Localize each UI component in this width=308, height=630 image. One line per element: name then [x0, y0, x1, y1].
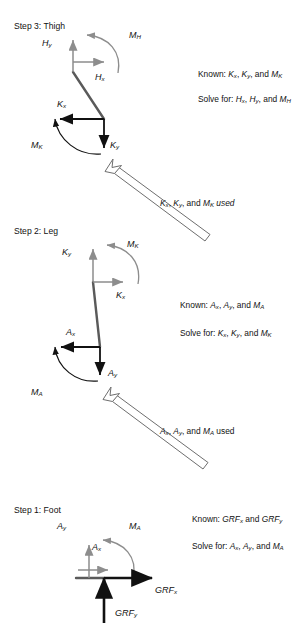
vector-sub-kx-thigh: x [63, 102, 66, 109]
vector-label-grfx: GRFx [155, 586, 177, 596]
and-4: and [237, 300, 251, 310]
ankle-moment-arc-foot [103, 540, 134, 578]
vector-base-mk-thigh: M [31, 140, 39, 150]
comma-6: , [182, 198, 184, 208]
comma-8: , [232, 300, 234, 310]
step1-solve-term-3-base: M [273, 541, 280, 551]
vector-sub-grfy: y [134, 611, 137, 618]
step1-solve-text: Solve for: Ax, Ay, and MA [192, 542, 284, 551]
step2-title: Step 2: Leg [14, 227, 58, 236]
vector-sub-grfx: x [174, 588, 177, 595]
comma-12: , [182, 426, 184, 436]
vector-label-ax-foot: Ax [92, 543, 101, 553]
vector-base-ma-foot: M [129, 521, 137, 531]
vector-sub-ky-leg: y [68, 250, 71, 257]
vector-label-mk-leg: MK [127, 240, 139, 250]
vector-sub-ky-thigh: y [116, 143, 119, 150]
hip-moment-arc [87, 35, 119, 73]
vector-label-hx: Hx [95, 73, 105, 83]
step2-known-term-3-sub: A [260, 303, 264, 310]
and-5: and [244, 328, 258, 338]
comma-4: , [259, 94, 261, 104]
step1-known-term-1-sub: x [240, 517, 243, 524]
leg-segment [93, 282, 100, 347]
step2-solve-text: Solve for: Kx, Ky, and MK [180, 329, 272, 338]
vector-sub-mh: H [137, 33, 141, 40]
comma-1: , [237, 69, 239, 79]
vector-label-grfy: GRFy [115, 609, 137, 619]
step1-known-text: Known: GRFx and GRFy [192, 515, 282, 524]
vector-label-mh: MH [129, 31, 141, 41]
knee-moment-arc-leg [107, 245, 139, 284]
step2-solve-term-3-sub: K [268, 331, 272, 338]
vector-sub-ma-leg: A [39, 390, 43, 397]
step2-known-text: Known: Ax, Ay, and MA [180, 301, 264, 310]
vector-sub-ax-leg: x [72, 330, 75, 337]
transfer2-term-3-base: M [203, 426, 210, 436]
step3-known-term-3-sub: K [278, 72, 282, 79]
comma-7: , [219, 300, 221, 310]
step3-thigh-freebody [55, 35, 119, 154]
and-8: and [256, 541, 270, 551]
comma-3: , [245, 94, 247, 104]
vector-base-grfy: GRF [115, 608, 134, 618]
vector-sub-mk-leg: K [135, 242, 139, 249]
step1-known-term-2-sub: y [279, 517, 282, 524]
transfer1-term-3-base: M [203, 198, 210, 208]
step2-leg-freebody [55, 245, 139, 381]
vector-sub-ay-leg: y [114, 371, 117, 378]
vector-label-ay-foot: Ay [57, 522, 66, 532]
comma-14: , [252, 541, 254, 551]
and-3: and [187, 198, 201, 208]
transfer1-suffix: used [216, 198, 234, 208]
knee-moment-arc [55, 119, 101, 154]
step1-foot-freebody [76, 540, 152, 623]
step2-solve-term-3-base: M [261, 328, 268, 338]
vector-base-mk-leg: M [127, 239, 135, 249]
inverse-dynamics-diagram: Step 3: Thigh Hy Hx MH Kx Ky MK Known: K… [0, 0, 308, 630]
vector-label-kx-leg: Kx [116, 291, 125, 301]
ankle-moment-arc-leg [55, 347, 98, 381]
transfer2-suffix: used [216, 426, 234, 436]
vector-label-mk-thigh: MK [31, 141, 43, 151]
vector-label-ma-foot: MA [129, 522, 141, 532]
step3-solve-term-3-sub: H [287, 97, 291, 104]
vector-label-ky-leg: Ky [62, 248, 71, 258]
comma-9: , [226, 328, 228, 338]
vector-label-ax-leg: Ax [66, 328, 75, 338]
vector-sub-hy: y [49, 41, 52, 48]
step3-known-text: Known: Kx, Ky, and MK [198, 70, 282, 79]
transfer-foot-to-leg-text: Ax, Ay, and MA used [160, 427, 234, 436]
step1-known-term-2-base: GRF [262, 514, 280, 524]
comma-10: , [240, 328, 242, 338]
vector-label-hy: Hy [42, 39, 52, 49]
step3-solve-label: Solve for: [198, 94, 233, 104]
vector-label-ay-leg: Ay [108, 369, 117, 379]
and-7: and [245, 514, 259, 524]
vector-sub-kx-leg: x [122, 293, 125, 300]
and-2: and [263, 94, 277, 104]
step3-solve-text: Solve for: Hx, Hy, and MH [198, 95, 291, 104]
vector-label-ky-thigh: Ky [110, 141, 119, 151]
step2-solve-label: Solve for: [180, 328, 215, 338]
step1-known-term-1-base: GRF [222, 514, 240, 524]
vector-sub-ax-foot: x [98, 545, 101, 552]
step3-known-label: Known: [198, 69, 226, 79]
step1-solve-term-3-sub: A [280, 544, 284, 551]
step3-title: Step 3: Thigh [14, 22, 65, 31]
comma-5: , [169, 198, 171, 208]
vector-base-ma-leg: M [31, 387, 39, 397]
step3-solve-term-3-base: M [280, 94, 287, 104]
vector-sub-hx: x [102, 75, 105, 82]
transfer2-term-3-sub: A [210, 429, 214, 436]
vector-label-ma-leg: MA [31, 388, 43, 398]
and-6: and [187, 426, 201, 436]
vector-sub-ay-foot: y [63, 524, 66, 531]
step1-title: Step 1: Foot [14, 506, 61, 515]
step1-known-label: Known: [192, 514, 220, 524]
and-1: and [255, 69, 269, 79]
comma-11: , [169, 426, 171, 436]
transfer1-term-3-sub: K [210, 201, 214, 208]
step1-solve-label: Solve for: [192, 541, 227, 551]
comma-2: , [250, 69, 252, 79]
